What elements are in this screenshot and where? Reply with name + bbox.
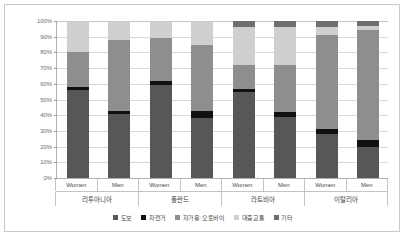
bars-layer — [57, 21, 388, 178]
x-axis-subcategory-label: Women — [304, 179, 347, 191]
y-axis-label: 60% — [40, 81, 52, 87]
bar-segment — [274, 112, 296, 117]
bar-segment — [67, 52, 89, 87]
y-axis-label: 50% — [40, 97, 52, 103]
bar-segment — [191, 118, 213, 178]
bar-stack — [150, 21, 172, 178]
bar-stack — [191, 21, 213, 178]
legend-item: 도보 — [113, 213, 132, 222]
bar-segment — [233, 65, 255, 89]
y-axis-label: 30% — [40, 128, 52, 134]
plot-area: 100%90%80%70%60%50%40%30%20%10%0% — [56, 21, 388, 179]
bar-segment — [357, 26, 379, 31]
x-axis-subcategory-label: Men — [180, 179, 223, 191]
bar-segment — [67, 21, 89, 52]
y-axis-label: 100% — [37, 18, 52, 24]
y-axis-label: 40% — [40, 112, 52, 118]
bar-stack — [108, 21, 130, 178]
bar-segment — [274, 21, 296, 27]
y-axis-label: 0% — [44, 175, 52, 181]
bar-stack — [67, 21, 89, 178]
bar-segment — [316, 27, 338, 35]
chart-frame: 100%90%80%70%60%50%40%30%20%10%0% WomenM… — [4, 4, 400, 232]
bar-segment — [191, 45, 213, 111]
bar-segment — [108, 111, 130, 114]
legend-swatch-icon — [234, 215, 239, 220]
legend-item: 대중교통 — [234, 213, 265, 222]
bar-segment — [316, 35, 338, 129]
legend-item: 자가용·오토바이 — [175, 213, 225, 222]
y-axis-label: 80% — [40, 49, 52, 55]
legend-item: 자전거 — [141, 213, 166, 222]
bar-segment — [316, 129, 338, 134]
bar-segment — [150, 85, 172, 178]
bar-segment — [108, 21, 130, 40]
x-axis-group-band: 리투아니아폴란드라트비아이탈리아 — [56, 192, 388, 206]
bar-segment — [274, 117, 296, 178]
bar-stack — [316, 21, 338, 178]
bar-stack — [357, 21, 379, 178]
bar-segment — [150, 81, 172, 86]
legend-label: 도보 — [121, 213, 133, 222]
bar-segment — [150, 21, 172, 38]
x-axis-group-label: 이탈리아 — [304, 192, 388, 206]
bar-segment — [274, 65, 296, 112]
bar-segment — [357, 30, 379, 140]
bar-segment — [108, 40, 130, 111]
x-axis-subcategory-label: Men — [97, 179, 140, 191]
bar-segment — [108, 114, 130, 178]
bar-segment — [357, 147, 379, 178]
bar-segment — [316, 134, 338, 178]
legend-swatch-icon — [175, 215, 180, 220]
legend-swatch-icon — [274, 215, 279, 220]
chart-legend: 도보자전거자가용·오토바이대중교통기타 — [5, 213, 401, 222]
legend-label: 자전거 — [149, 213, 166, 222]
bar-segment — [233, 21, 255, 27]
x-axis-group-label: 라트비아 — [221, 192, 305, 206]
bar-segment — [191, 21, 213, 45]
bar-segment — [274, 27, 296, 65]
bar-segment — [357, 21, 379, 26]
x-axis-subcategory-label: Men — [346, 179, 389, 191]
legend-label: 기타 — [281, 213, 293, 222]
bar-segment — [150, 38, 172, 80]
x-axis-subcategory-label: Women — [55, 179, 98, 191]
x-axis-subcategory-label: Women — [138, 179, 181, 191]
legend-swatch-icon — [113, 215, 118, 220]
bar-segment — [191, 111, 213, 119]
x-axis-subcategory-band: WomenMenWomenMenWomenMenWomenMen — [56, 179, 388, 192]
bar-segment — [233, 27, 255, 65]
bar-segment — [233, 92, 255, 178]
x-axis-group-label: 리투아니아 — [55, 192, 139, 206]
legend-label: 대중교통 — [242, 213, 265, 222]
bar-stack — [274, 21, 296, 178]
x-axis-subcategory-label: Men — [263, 179, 306, 191]
bar-segment — [316, 21, 338, 27]
bar-segment — [233, 89, 255, 92]
y-axis-label: 20% — [40, 144, 52, 150]
y-axis-label: 90% — [40, 34, 52, 40]
bar-segment — [67, 90, 89, 178]
x-axis-subcategory-label: Women — [221, 179, 264, 191]
bar-segment — [67, 87, 89, 90]
legend-item: 기타 — [274, 213, 293, 222]
legend-swatch-icon — [141, 215, 146, 220]
x-axis-group-label: 폴란드 — [138, 192, 222, 206]
bar-stack — [233, 21, 255, 178]
legend-label: 자가용·오토바이 — [183, 213, 225, 222]
bar-segment — [357, 140, 379, 146]
y-axis-label: 70% — [40, 65, 52, 71]
y-axis-label: 10% — [40, 159, 52, 165]
